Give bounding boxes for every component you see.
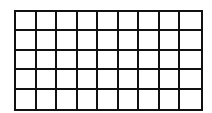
grid-cell — [139, 51, 160, 70]
grid-cell — [119, 90, 140, 109]
grid-diagram — [14, 10, 203, 111]
grid-cell — [139, 90, 160, 109]
grid-cell — [78, 90, 99, 109]
grid-cell — [16, 70, 37, 89]
grid-cell — [98, 12, 119, 31]
grid-cell — [180, 31, 201, 50]
grid-cell — [139, 31, 160, 50]
grid-cell — [78, 51, 99, 70]
grid-cell — [119, 70, 140, 89]
grid-cell — [180, 51, 201, 70]
grid-cell — [98, 70, 119, 89]
grid-cell — [78, 12, 99, 31]
grid-cell — [16, 51, 37, 70]
grid-cell — [139, 70, 160, 89]
grid-cell — [78, 70, 99, 89]
grid-cell — [57, 12, 78, 31]
grid-cell — [16, 31, 37, 50]
grid-cell — [37, 90, 58, 109]
grid-cell — [57, 51, 78, 70]
grid-cell — [57, 31, 78, 50]
grid-cell — [78, 31, 99, 50]
grid-cell — [37, 31, 58, 50]
grid-cell — [139, 12, 160, 31]
grid-cell — [160, 51, 181, 70]
grid-cell — [119, 31, 140, 50]
grid-cell — [16, 90, 37, 109]
grid-cell — [37, 70, 58, 89]
grid-cell — [37, 12, 58, 31]
grid-cell — [98, 31, 119, 50]
grid-cell — [119, 12, 140, 31]
grid-cell — [180, 12, 201, 31]
grid-cell — [160, 90, 181, 109]
grid-cell — [160, 12, 181, 31]
grid-cell — [57, 90, 78, 109]
grid-cell — [160, 70, 181, 89]
grid-cell — [98, 90, 119, 109]
grid-cell — [180, 90, 201, 109]
grid-cell — [180, 70, 201, 89]
grid-cell — [98, 51, 119, 70]
grid-cell — [160, 31, 181, 50]
grid-cell — [37, 51, 58, 70]
grid-cell — [57, 70, 78, 89]
grid-cell — [16, 12, 37, 31]
grid-cell — [119, 51, 140, 70]
